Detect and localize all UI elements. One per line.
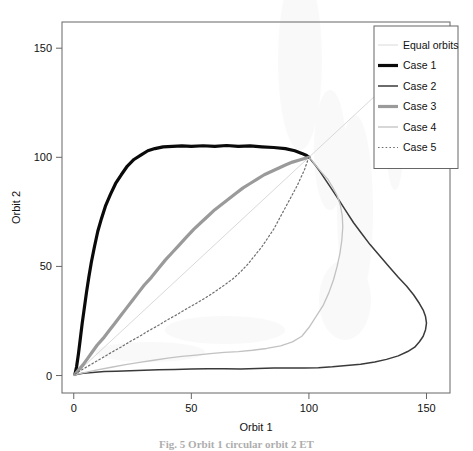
figure-caption: Fig. 5 Orbit 1 circular orbit 2 ET — [0, 437, 473, 451]
x-axis-title: Orbit 1 — [239, 421, 272, 433]
legend-label-case-4: Case 4 — [403, 121, 436, 133]
legend-label-case-2: Case 2 — [403, 80, 436, 92]
x-tick-label: 0 — [71, 402, 77, 414]
y-tick-label: 0 — [46, 370, 52, 382]
x-tick-label: 150 — [417, 402, 435, 414]
y-tick-label: 50 — [40, 260, 52, 272]
legend-label-case-5: Case 5 — [403, 141, 436, 153]
legend-label-equal-orbits: Equal orbits — [403, 39, 458, 51]
orbit-scatter-plot: 050100150050100150Orbit 1Orbit 2Equal or… — [0, 0, 473, 451]
x-tick-label: 50 — [185, 402, 197, 414]
y-axis-title: Orbit 2 — [10, 191, 22, 224]
legend-label-case-3: Case 3 — [403, 100, 436, 112]
legend-label-case-1: Case 1 — [403, 59, 436, 71]
figure-container: 050100150050100150Orbit 1Orbit 2Equal or… — [0, 0, 473, 451]
y-tick-label: 150 — [34, 42, 52, 54]
y-tick-label: 100 — [34, 151, 52, 163]
x-tick-label: 100 — [300, 402, 318, 414]
